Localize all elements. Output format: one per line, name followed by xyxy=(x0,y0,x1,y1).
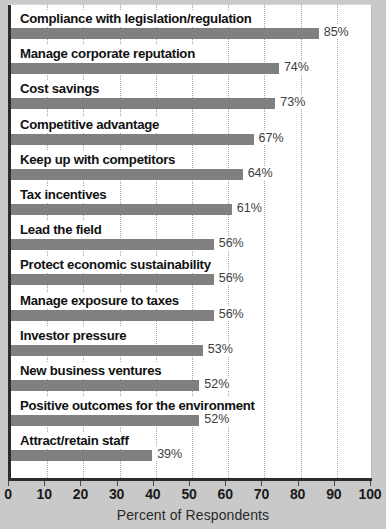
bar-value-label: 56% xyxy=(217,307,246,321)
bar xyxy=(11,239,214,250)
bar-category-label: Lead the field xyxy=(17,221,106,238)
bar-category-label: Protect economic sustainability xyxy=(17,256,215,273)
x-tick-label-40: 40 xyxy=(145,486,160,502)
bar-value-label: 61% xyxy=(235,201,264,215)
bar-value-label: 52% xyxy=(202,377,231,391)
bar-category-label: New business ventures xyxy=(17,362,165,379)
bar xyxy=(11,310,214,321)
bar xyxy=(11,204,232,215)
bar-value-label: 56% xyxy=(217,271,246,285)
bar xyxy=(11,345,203,356)
bar-value-label: 53% xyxy=(206,342,235,356)
x-tick-label-20: 20 xyxy=(73,486,88,502)
x-tick-label-30: 30 xyxy=(109,486,124,502)
x-tick-label-0: 0 xyxy=(4,486,12,502)
bar xyxy=(11,98,275,109)
x-tick-label-100: 100 xyxy=(359,486,382,502)
bar-value-label: 64% xyxy=(246,166,275,180)
bar-value-label: 67% xyxy=(257,131,286,145)
bar xyxy=(11,28,319,39)
x-axis-title: Percent of Respondents xyxy=(0,507,386,523)
bar xyxy=(11,274,214,285)
bar-value-label: 74% xyxy=(282,60,311,74)
x-axis-line xyxy=(8,478,372,481)
bar-value-label: 85% xyxy=(322,25,351,39)
bar-chart: Compliance with legislation/regulation85… xyxy=(0,0,386,529)
x-tick-label-10: 10 xyxy=(37,486,52,502)
gridline-80 xyxy=(301,5,303,478)
bar xyxy=(11,169,243,180)
bar-category-label: Manage exposure to taxes xyxy=(17,292,183,309)
bar-category-label: Compliance with legislation/regulation xyxy=(17,10,256,27)
bar-value-label: 56% xyxy=(217,236,246,250)
x-tick-label-80: 80 xyxy=(290,486,305,502)
bar-category-label: Keep up with competitors xyxy=(17,151,179,168)
bar-category-label: Attract/retain staff xyxy=(17,432,133,449)
bar-value-label: 39% xyxy=(155,447,184,461)
plot-area: Compliance with legislation/regulation85… xyxy=(8,5,371,478)
bar xyxy=(11,380,199,391)
gridline-70 xyxy=(264,5,266,478)
bar-category-label: Cost savings xyxy=(17,80,103,97)
x-tick-label-90: 90 xyxy=(326,486,341,502)
bar xyxy=(11,415,199,426)
bar-category-label: Investor pressure xyxy=(17,327,130,344)
bar-category-label: Tax incentives xyxy=(17,186,110,203)
bar-value-label: 52% xyxy=(202,412,231,426)
bar-value-label: 73% xyxy=(278,95,307,109)
bar xyxy=(11,134,254,145)
x-tick-label-70: 70 xyxy=(254,486,269,502)
bar-category-label: Manage corporate reputation xyxy=(17,45,199,62)
x-tick-label-60: 60 xyxy=(218,486,233,502)
bar xyxy=(11,63,279,74)
bar xyxy=(11,450,152,461)
gridline-90 xyxy=(337,5,339,478)
x-tick-label-50: 50 xyxy=(181,486,196,502)
bar-category-label: Competitive advantage xyxy=(17,116,163,133)
